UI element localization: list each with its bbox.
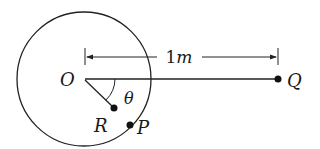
- distance-label: 1m: [166, 47, 193, 67]
- point-Q: [275, 76, 282, 83]
- label-O: O: [60, 69, 75, 90]
- theta-arc: [106, 79, 115, 100]
- point-R: [111, 105, 118, 112]
- arrowhead-left-icon: [86, 55, 93, 60]
- label-R: R: [93, 115, 108, 136]
- label-Q: Q: [287, 70, 302, 91]
- label-theta: θ: [124, 89, 134, 108]
- point-P: [127, 122, 134, 129]
- arrowhead-right-icon: [270, 55, 277, 60]
- line-OR: [85, 80, 113, 107]
- diagram-canvas: 1m O Q R P θ: [0, 0, 320, 149]
- distance-unit: m: [176, 47, 192, 67]
- distance-number: 1: [166, 47, 177, 67]
- label-P: P: [136, 117, 150, 138]
